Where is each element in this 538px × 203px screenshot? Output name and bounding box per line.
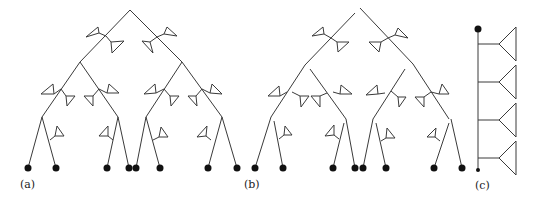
- side-branch: [478, 103, 516, 137]
- panel-b-tree: (b): [244, 8, 466, 191]
- flag-icon: [312, 27, 408, 52]
- panel-c-chain: (c): [475, 26, 517, 193]
- leaf-node: [252, 165, 259, 172]
- flag-icon: [50, 126, 211, 140]
- panel-label-a: (a): [20, 178, 35, 191]
- leaf-node: [205, 165, 212, 172]
- side-branch: [478, 141, 516, 175]
- panel-label-c: (c): [475, 179, 490, 192]
- leaf-node: [352, 165, 359, 172]
- leaf-node: [330, 165, 337, 172]
- flag-icon: [41, 84, 222, 106]
- flag-icon: [268, 84, 449, 107]
- leaf-node: [104, 165, 111, 172]
- leaf-node: [25, 165, 32, 172]
- leaf-node: [431, 165, 438, 172]
- leaf-node: [234, 165, 241, 172]
- leaf-node: [133, 165, 140, 172]
- leaf-node: [53, 165, 60, 172]
- flag-icon: [499, 103, 516, 137]
- flag-icon: [499, 27, 516, 61]
- leaf-node: [157, 165, 164, 172]
- flag-icon: [499, 141, 516, 175]
- leaf-nodes: [25, 165, 241, 172]
- panel-a-tree: (a): [20, 10, 241, 191]
- panel-label-b: (b): [244, 178, 260, 191]
- end-node: [476, 168, 480, 172]
- root-node: [475, 26, 482, 33]
- flag-icon: [279, 125, 440, 141]
- leaf-node: [383, 165, 390, 172]
- side-branch: [478, 27, 516, 61]
- flag-icon: [499, 65, 516, 99]
- leaf-node: [280, 165, 287, 172]
- leaf-nodes: [252, 165, 466, 172]
- flag-icon: [86, 27, 177, 53]
- leaf-node: [126, 165, 133, 172]
- leaf-node: [459, 165, 466, 172]
- tree-diagram-figure: (a): [0, 0, 538, 203]
- side-branch: [478, 65, 516, 99]
- leaf-node: [360, 165, 367, 172]
